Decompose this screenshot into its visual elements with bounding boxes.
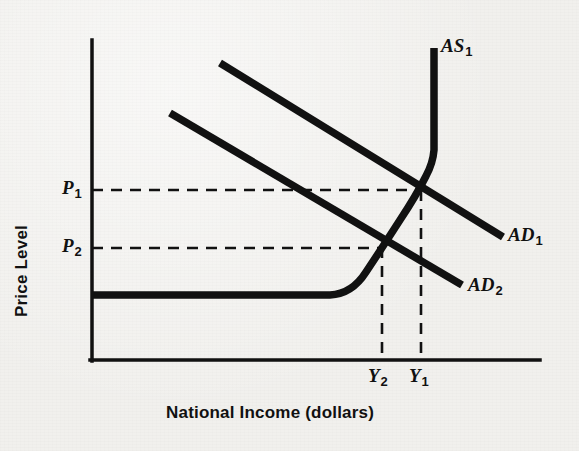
tick-label-p2-base: P [62, 235, 74, 256]
plot-area [0, 0, 579, 451]
tick-label-p1-base: P [62, 177, 74, 198]
tick-label-y1: Y1 [409, 366, 428, 385]
tick-label-y2-base: Y [368, 365, 380, 386]
curve-label-ad1-subscript: 1 [535, 233, 542, 248]
tick-label-p2-subscript: 2 [75, 244, 82, 259]
ad2-curve [170, 113, 462, 285]
curve-label-ad1-base: AD [508, 224, 534, 245]
tick-label-y2: Y2 [368, 366, 387, 385]
curve-label-ad1: AD1 [508, 225, 542, 244]
y-axis-title: Price Level [13, 225, 30, 317]
tick-label-p2: P2 [62, 236, 81, 255]
tick-label-y1-base: Y [409, 365, 421, 386]
curve-label-ad2-subscript: 2 [495, 283, 502, 298]
curve-label-as1-base: AS [441, 35, 464, 56]
tick-label-y2-subscript: 2 [381, 374, 388, 389]
curve-label-ad2-base: AD [468, 274, 494, 295]
ad1-curve [220, 63, 503, 237]
economics-diagram: Price Level National Income (dollars) P1… [0, 0, 579, 451]
tick-label-y1-subscript: 1 [422, 374, 429, 389]
tick-label-p1-subscript: 1 [75, 186, 82, 201]
curve-label-as1: AS1 [441, 36, 471, 55]
x-axis-title: National Income (dollars) [166, 404, 374, 421]
tick-label-p1: P1 [62, 178, 81, 197]
curve-label-as1-subscript: 1 [465, 44, 472, 59]
curve-label-ad2: AD2 [468, 275, 502, 294]
